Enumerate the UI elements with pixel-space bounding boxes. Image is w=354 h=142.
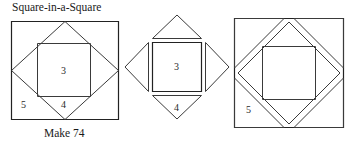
piece-label-side-4: 4 xyxy=(61,100,66,110)
square-in-a-square-diagram: Square-in-a-Square Make 74 3 5 4 3 xyxy=(0,0,354,142)
piece-label-center-3: 3 xyxy=(61,66,66,76)
exploded-right-triangle xyxy=(206,43,230,92)
corner-triangle-bottom-right xyxy=(294,78,344,128)
corner-triangle-top-left xyxy=(235,19,285,69)
exploded-left-triangle xyxy=(125,43,149,92)
piece-label-exploded-center-3: 3 xyxy=(174,62,179,72)
exploded-top-triangle xyxy=(153,15,202,39)
inner-square-outline-3 xyxy=(263,47,316,100)
inner-diamond-outline-3 xyxy=(238,22,340,124)
piece-label-exploded-corner-5: 5 xyxy=(246,105,251,115)
corner-triangle-bottom-left xyxy=(235,78,285,128)
piece-label-corner-5: 5 xyxy=(21,100,26,110)
corner-triangle-top-right xyxy=(294,19,344,69)
piece-label-exploded-side-4: 4 xyxy=(174,103,179,113)
